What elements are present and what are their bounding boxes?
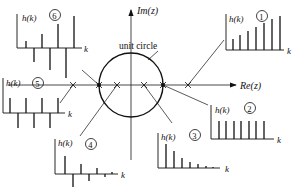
panel-3-xlabel: k	[225, 164, 230, 174]
panel-4: h(k) 4 k	[55, 138, 126, 187]
panel-1-ylabel: h(k)	[229, 14, 244, 24]
panel-2: h(k) 2 k	[211, 103, 282, 146]
panel-1: h(k) 1 k	[226, 11, 292, 57]
panel-4-marker: 4	[88, 140, 93, 150]
panel-4-ylabel: h(k)	[58, 138, 73, 148]
panel-3-marker: 3	[192, 131, 196, 141]
panel-1-xlabel: k	[287, 46, 292, 56]
panel-2-xlabel: k	[277, 135, 282, 145]
panel-2-ylabel: h(k)	[215, 105, 230, 115]
panel-6-ylabel: h(k)	[22, 13, 37, 23]
unit-circle-label: unit circle	[119, 41, 157, 51]
panel-4-xlabel: k	[121, 170, 126, 180]
panel-5-marker: 5	[35, 79, 39, 89]
panel-1-marker: 1	[259, 12, 263, 22]
real-axis-label: Re(z)	[239, 80, 262, 92]
panel-2-marker: 2	[247, 104, 251, 114]
panel-6: h(k) 6 k	[17, 10, 89, 79]
imag-axis-label: Im(z)	[136, 5, 159, 17]
real-axis: Re(z)	[8, 80, 262, 92]
panel-6-marker: 6	[52, 11, 56, 21]
imaginary-axis: Im(z)	[131, 5, 159, 160]
panel-5-ylabel: h(k)	[6, 78, 21, 88]
panel-3-ylabel: h(k)	[161, 132, 176, 142]
panel-6-xlabel: k	[84, 44, 89, 54]
pole-location-diagram: Im(z) Re(z) unit circle	[0, 0, 294, 189]
panel-5-xlabel: k	[68, 109, 73, 119]
